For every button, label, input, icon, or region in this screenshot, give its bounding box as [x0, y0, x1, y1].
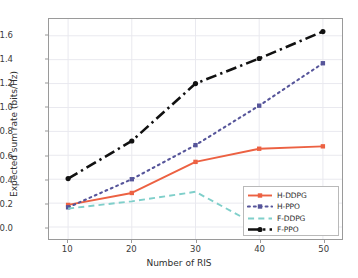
x-tick-label: 40	[254, 244, 265, 254]
data-point-f-ppo	[320, 29, 325, 34]
y-tick-label: 0.0	[0, 223, 13, 233]
y-tick-mark	[45, 59, 48, 60]
legend-swatch-f-ppo	[247, 224, 273, 235]
data-point-h-ppo	[257, 104, 261, 108]
legend-label: F-DDPG	[277, 214, 305, 223]
y-tick-label: 0.6	[0, 151, 13, 161]
data-point-h-ppo	[130, 177, 134, 181]
x-tick-mark	[67, 240, 68, 243]
y-tick-label: 1.0	[0, 102, 13, 112]
x-axis-label: Number of RIS	[0, 258, 358, 268]
y-tick-mark	[45, 155, 48, 156]
data-point-f-ppo	[66, 176, 71, 181]
legend-label: F-PPO	[277, 225, 298, 234]
data-point-f-ppo	[129, 138, 134, 143]
x-tick-label: 10	[62, 244, 73, 254]
data-point-h-ddpg	[193, 160, 197, 164]
series-line-f-ppo	[68, 32, 323, 179]
data-point-h-ddpg	[257, 147, 261, 151]
data-point-f-ppo	[257, 56, 262, 61]
y-tick-label: 0.2	[0, 199, 13, 209]
data-point-h-ddpg	[130, 191, 134, 195]
legend-swatch-h-ddpg	[247, 190, 273, 201]
data-point-h-ppo	[193, 143, 197, 147]
y-tick-label: 0.4	[0, 175, 13, 185]
legend-item-h-ppo[interactable]: H-PPO	[247, 201, 335, 212]
y-tick-mark	[45, 131, 48, 132]
y-tick-mark	[45, 34, 48, 35]
chart-figure: Expected sum rate (bits/Hz) 0.00.20.40.6…	[0, 0, 358, 278]
y-tick-label: 1.6	[0, 30, 13, 40]
y-tick-mark	[45, 179, 48, 180]
y-tick-label: 1.2	[0, 78, 13, 88]
x-tick-mark	[324, 240, 325, 243]
data-point-h-ppo	[321, 61, 325, 65]
legend-swatch-f-ddpg	[247, 213, 273, 224]
y-tick-mark	[45, 107, 48, 108]
chart-legend: H-DDPGH-PPOF-DDPGF-PPO	[243, 186, 339, 236]
legend-label: H-PPO	[277, 202, 300, 211]
legend-swatch-h-ppo	[247, 201, 273, 212]
legend-item-f-ppo[interactable]: F-PPO	[247, 224, 335, 235]
legend-label: H-DDPG	[277, 191, 307, 200]
x-tick-mark	[260, 240, 261, 243]
x-tick-mark	[196, 240, 197, 243]
legend-item-f-ddpg[interactable]: F-DDPG	[247, 213, 335, 224]
x-tick-mark	[131, 240, 132, 243]
data-point-f-ppo	[193, 81, 198, 86]
x-tick-label: 30	[190, 244, 201, 254]
y-tick-label: 0.8	[0, 126, 13, 136]
y-tick-label: 1.4	[0, 54, 13, 64]
x-tick-label: 50	[318, 244, 329, 254]
y-tick-mark	[45, 227, 48, 228]
y-tick-mark	[45, 83, 48, 84]
data-point-h-ddpg	[321, 144, 325, 148]
y-tick-mark	[45, 203, 48, 204]
x-tick-label: 20	[126, 244, 137, 254]
legend-item-h-ddpg[interactable]: H-DDPG	[247, 190, 335, 201]
